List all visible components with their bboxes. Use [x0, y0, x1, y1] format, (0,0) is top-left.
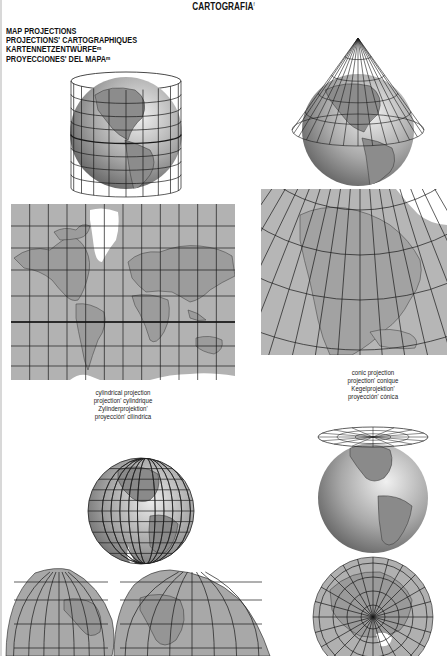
interrupted-map — [6, 569, 270, 656]
cylindrical-caption: cylindrical projection projection' cylin… — [72, 389, 174, 421]
conic-caption: conic projection projection' conique Keg… — [326, 369, 420, 401]
caption-es: proyección' cilíndrica — [72, 413, 174, 421]
interrupted-globe — [88, 458, 194, 566]
caption-es: proyección' cónica — [326, 393, 420, 401]
mercator-map — [11, 204, 235, 380]
cone-wireframe — [292, 38, 424, 146]
polar-azimuthal-map — [311, 555, 435, 656]
cylindrical-globe-illustration — [0, 0, 447, 656]
azimuthal-globe — [318, 427, 428, 553]
